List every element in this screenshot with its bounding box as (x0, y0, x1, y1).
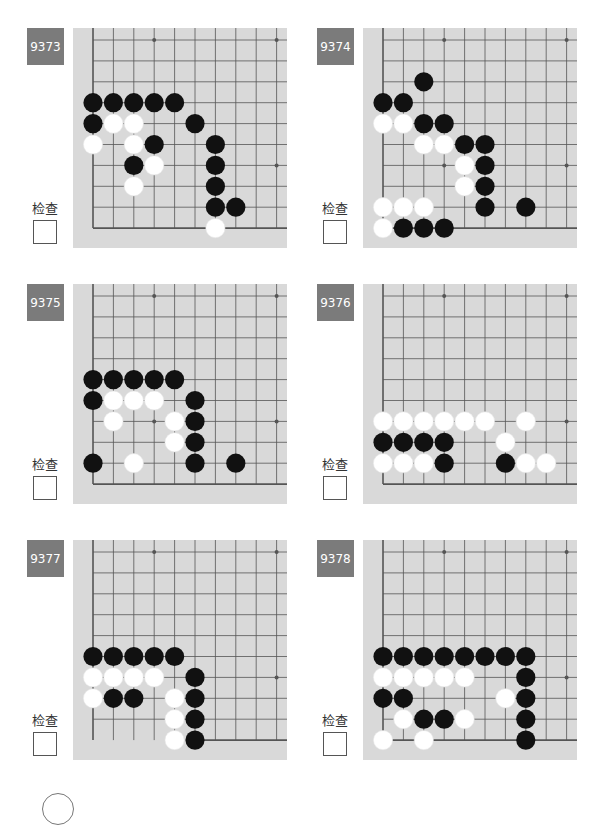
star-point-icon (275, 38, 279, 42)
white-stone-icon (516, 454, 535, 473)
board-grid (73, 540, 287, 760)
black-stone-icon (165, 370, 184, 389)
white-stone-icon (83, 135, 102, 154)
check-label: 检查 (322, 710, 348, 729)
star-point-icon (442, 294, 446, 298)
white-stone-icon (455, 177, 474, 196)
check-label: 检查 (32, 710, 58, 729)
white-stone-icon (373, 454, 392, 473)
white-stone-icon (496, 433, 515, 452)
problem-9375: 9375 检查 (27, 284, 297, 519)
black-stone-icon (206, 156, 225, 175)
check-label: 检查 (322, 198, 348, 217)
black-stone-icon (516, 689, 535, 708)
star-point-icon (565, 419, 569, 423)
black-stone-icon (455, 647, 474, 666)
black-stone-icon (226, 454, 245, 473)
black-stone-icon (83, 454, 102, 473)
black-stone-icon (104, 689, 123, 708)
star-point-icon (152, 419, 156, 423)
check-checkbox[interactable] (323, 220, 347, 244)
black-stone-icon (414, 72, 433, 91)
black-stone-icon (516, 198, 535, 217)
white-stone-icon (394, 710, 413, 729)
white-stone-icon (165, 689, 184, 708)
board-grid (363, 28, 577, 248)
black-stone-icon (83, 647, 102, 666)
problem-number-badge: 9376 (317, 284, 354, 321)
black-stone-icon (394, 689, 413, 708)
go-board (363, 284, 577, 504)
white-stone-icon (414, 731, 433, 750)
white-stone-icon (394, 454, 413, 473)
black-stone-icon (185, 412, 204, 431)
black-stone-icon (516, 647, 535, 666)
black-stone-icon (124, 370, 143, 389)
problem-9374: 9374 检查 (317, 28, 587, 263)
white-stone-icon (414, 412, 433, 431)
problem-number-badge: 9374 (317, 28, 354, 65)
white-stone-icon (414, 198, 433, 217)
black-stone-icon (394, 93, 413, 112)
black-stone-icon (165, 647, 184, 666)
black-stone-icon (124, 647, 143, 666)
black-stone-icon (475, 647, 494, 666)
white-stone-icon (435, 135, 454, 154)
white-stone-icon (414, 454, 433, 473)
black-stone-icon (414, 647, 433, 666)
star-point-icon (275, 163, 279, 167)
white-stone-icon (373, 219, 392, 238)
star-point-icon (152, 550, 156, 554)
white-stone-icon (83, 668, 102, 687)
white-stone-icon (104, 412, 123, 431)
star-point-icon (275, 675, 279, 679)
black-stone-icon (516, 710, 535, 729)
white-stone-icon (206, 219, 225, 238)
star-point-icon (442, 163, 446, 167)
black-stone-icon (104, 370, 123, 389)
black-stone-icon (185, 710, 204, 729)
problem-number-badge: 9375 (27, 284, 64, 321)
black-stone-icon (124, 689, 143, 708)
check-checkbox[interactable] (33, 476, 57, 500)
go-board (73, 284, 287, 504)
black-stone-icon (475, 156, 494, 175)
black-stone-icon (145, 135, 164, 154)
white-stone-icon (104, 668, 123, 687)
white-stone-icon (165, 433, 184, 452)
black-stone-icon (435, 647, 454, 666)
check-checkbox[interactable] (323, 476, 347, 500)
problem-number-badge: 9373 (27, 28, 64, 65)
check-checkbox[interactable] (33, 732, 57, 756)
white-stone-icon (373, 114, 392, 133)
black-stone-icon (104, 93, 123, 112)
page-number-circle-icon (42, 793, 74, 825)
white-stone-icon (516, 412, 535, 431)
check-checkbox[interactable] (33, 220, 57, 244)
white-stone-icon (394, 668, 413, 687)
check-checkbox[interactable] (323, 732, 347, 756)
problem-number-badge: 9377 (27, 540, 64, 577)
black-stone-icon (394, 647, 413, 666)
black-stone-icon (185, 433, 204, 452)
star-point-icon (565, 163, 569, 167)
star-point-icon (275, 294, 279, 298)
black-stone-icon (373, 689, 392, 708)
white-stone-icon (124, 668, 143, 687)
white-stone-icon (394, 114, 413, 133)
white-stone-icon (104, 114, 123, 133)
white-stone-icon (124, 135, 143, 154)
star-point-icon (275, 419, 279, 423)
black-stone-icon (185, 731, 204, 750)
go-board (363, 540, 577, 760)
black-stone-icon (373, 647, 392, 666)
star-point-icon (152, 294, 156, 298)
black-stone-icon (373, 93, 392, 112)
white-stone-icon (537, 454, 556, 473)
black-stone-icon (414, 114, 433, 133)
go-board (363, 28, 577, 248)
star-point-icon (565, 38, 569, 42)
black-stone-icon (455, 135, 474, 154)
go-board (73, 540, 287, 760)
white-stone-icon (145, 668, 164, 687)
